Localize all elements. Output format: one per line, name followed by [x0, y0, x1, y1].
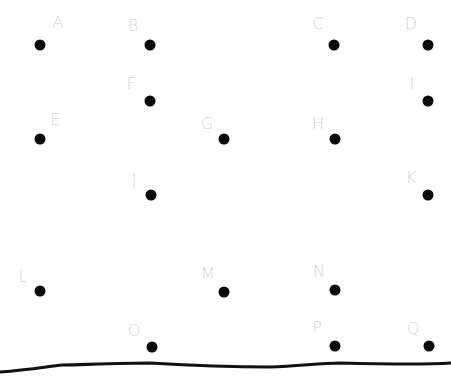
point-g-dot [219, 134, 230, 145]
point-m-label: M [201, 266, 215, 282]
point-n-label: N [313, 264, 325, 280]
point-q-label: Q [407, 321, 420, 337]
point-i-dot [423, 96, 434, 107]
point-h-dot [330, 134, 341, 145]
point-a-label: A [53, 15, 64, 31]
point-i-label: I [410, 76, 415, 92]
point-c-label: C [312, 16, 323, 32]
point-p-label: P [312, 320, 322, 336]
point-l-label: L [19, 269, 28, 285]
point-f-dot [145, 96, 156, 107]
ground-line [0, 0, 451, 377]
point-n-dot [330, 285, 341, 296]
point-e-dot [35, 134, 46, 145]
point-k-label: K [406, 170, 417, 186]
point-o-dot [147, 342, 158, 353]
point-p-dot [330, 341, 341, 352]
point-d-dot [423, 40, 434, 51]
dot-diagram: ABCDEFGHIJKLMNOPQ [0, 0, 451, 377]
point-o-label: O [128, 323, 141, 339]
point-c-dot [329, 40, 340, 51]
point-j-dot [146, 190, 157, 201]
point-a-dot [35, 40, 46, 51]
point-k-dot [423, 190, 434, 201]
point-j-label: J [132, 172, 137, 188]
point-l-dot [35, 286, 46, 297]
point-f-label: F [126, 76, 135, 92]
point-h-label: H [312, 116, 324, 132]
point-g-label: G [201, 116, 213, 132]
point-e-label: E [50, 112, 60, 128]
point-b-label: B [128, 18, 138, 34]
point-m-dot [219, 287, 230, 298]
point-b-dot [145, 40, 156, 51]
point-q-dot [424, 341, 435, 352]
point-d-label: D [405, 16, 417, 32]
